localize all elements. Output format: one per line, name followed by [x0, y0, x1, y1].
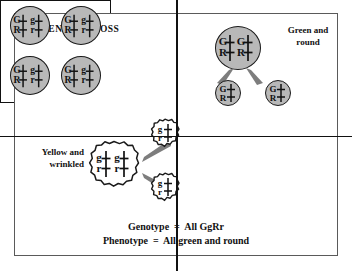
- svg-text:R: R: [219, 46, 228, 58]
- svg-text:R: R: [65, 24, 72, 34]
- svg-text:r: r: [81, 74, 86, 84]
- svg-text:g: g: [81, 15, 86, 25]
- svg-text:r: r: [81, 24, 86, 34]
- svg-text:R: R: [14, 24, 21, 34]
- chromosomes-ggrr: g r g r: [93, 149, 135, 179]
- svg-text:G: G: [64, 15, 72, 25]
- svg-text:g: g: [30, 65, 35, 75]
- svg-text:r: r: [158, 133, 162, 143]
- genetics-punnett-diagram: PARENTAL CROSS Green and round Yellow an…: [0, 0, 352, 271]
- svg-text:R: R: [237, 46, 246, 58]
- svg-text:r: r: [30, 24, 35, 34]
- chromosomes-GgRr: G R g r: [11, 13, 49, 39]
- svg-text:G: G: [13, 15, 21, 25]
- green-round-label: Green and round: [276, 24, 340, 48]
- chromosomes-GgRr: G R g r: [62, 63, 100, 89]
- svg-text:R: R: [65, 74, 72, 84]
- svg-text:R: R: [14, 74, 21, 84]
- chromosome-pair-group: G R g r: [11, 57, 49, 94]
- chromosome-pair-group: g r g r: [88, 140, 140, 188]
- svg-text:G: G: [64, 65, 72, 75]
- chromosome-group: G R: [216, 81, 240, 105]
- gamete-green-right: G R: [265, 80, 291, 106]
- svg-text:r: r: [30, 74, 35, 84]
- svg-text:r: r: [115, 162, 120, 174]
- chromosome-GR: G R: [216, 83, 240, 103]
- green-round-parent: G R G R: [215, 26, 261, 70]
- phenotype-result: Phenotype = All green and round: [0, 235, 352, 247]
- chromosome-pair-group: G R G R: [216, 27, 260, 69]
- svg-text:R: R: [220, 93, 227, 103]
- offspring-top-right: G R g r: [61, 6, 101, 45]
- punnett-horizontal-divider: [0, 136, 352, 138]
- offspring-bottom-left: G R g r: [10, 56, 50, 95]
- gamete-green-left: G R: [215, 80, 241, 106]
- svg-text:r: r: [158, 187, 162, 197]
- yellow-wrinkled-parent: g r g r: [88, 140, 140, 188]
- chromosome-gr: g r: [153, 177, 177, 197]
- chromosome-pair-group: G R g r: [62, 7, 100, 44]
- chromosomes-GGRR: G R G R: [217, 33, 259, 63]
- chromosome-pair-group: G R g r: [62, 57, 100, 94]
- svg-text:g: g: [81, 65, 86, 75]
- offspring-bottom-right: G R g r: [61, 56, 101, 95]
- chromosomes-GgRr: G R g r: [11, 63, 49, 89]
- svg-text:R: R: [270, 93, 277, 103]
- svg-text:G: G: [13, 65, 21, 75]
- chromosomes-GgRr: G R g r: [62, 13, 100, 39]
- chromosome-GR: G R: [266, 83, 290, 103]
- chromosome-group: G R: [266, 81, 290, 105]
- yellow-wrinkled-label: Yellow and wrinkled: [10, 146, 84, 170]
- offspring-top-left: G R g r: [10, 6, 50, 45]
- genotype-result: Genotype = All GgRr: [0, 221, 352, 233]
- chromosome-pair-group: G R g r: [11, 7, 49, 44]
- svg-text:g: g: [30, 15, 35, 25]
- chromosome-gr: g r: [153, 123, 177, 143]
- svg-text:r: r: [97, 162, 102, 174]
